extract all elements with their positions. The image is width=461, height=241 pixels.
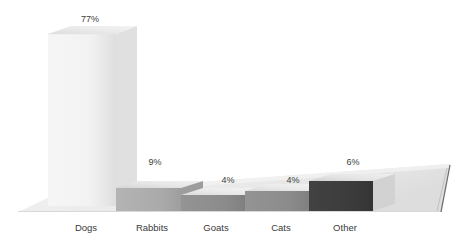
bar-cats-front-face bbox=[245, 191, 309, 211]
bar-rabbits-front-face bbox=[116, 188, 181, 211]
value-label-goats: 4% bbox=[221, 175, 234, 185]
bar-chart: 77% 9% 4% 4% 6% Dogs Rabbits Goats Cats … bbox=[0, 0, 461, 241]
category-label-dogs: Dogs bbox=[75, 222, 97, 233]
bar-dogs-side-face bbox=[116, 26, 137, 206]
bar-dogs-front-face bbox=[48, 34, 116, 206]
bar-dogs[interactable] bbox=[48, 26, 137, 206]
value-label-other: 6% bbox=[346, 157, 359, 167]
category-label-cats: Cats bbox=[271, 222, 291, 233]
bar-other-front-face bbox=[309, 181, 373, 211]
category-label-goats: Goats bbox=[203, 222, 229, 233]
value-label-dogs: 77% bbox=[81, 14, 99, 24]
bar-goats-front-face bbox=[181, 195, 245, 211]
chart-canvas: 77% 9% 4% 4% 6% Dogs Rabbits Goats Cats … bbox=[0, 0, 461, 241]
value-label-cats: 4% bbox=[286, 175, 299, 185]
bar-other[interactable] bbox=[309, 174, 395, 211]
value-label-rabbits: 9% bbox=[148, 157, 161, 167]
category-label-rabbits: Rabbits bbox=[136, 222, 168, 233]
category-label-other: Other bbox=[333, 222, 357, 233]
